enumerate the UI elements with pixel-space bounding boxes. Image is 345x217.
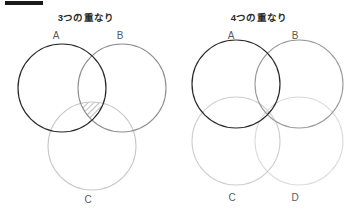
- venn-diagram-figure: 3つの重なり: [0, 0, 345, 217]
- venn-label-a-four: A: [223, 30, 239, 41]
- circle-d-four: [255, 97, 343, 185]
- circle-b-three: [78, 44, 166, 132]
- panel-title-four-overlap: 4つの重なり: [173, 12, 345, 24]
- circle-a-four: [192, 40, 280, 128]
- venn-svg-three: [0, 26, 172, 217]
- venn-label-c-four: C: [224, 192, 240, 203]
- venn-label-b-four: B: [287, 30, 303, 41]
- venn-label-c-three: C: [80, 194, 96, 205]
- circle-a-three: [18, 44, 106, 132]
- panel-three-overlap: 3つの重なり: [0, 0, 172, 217]
- venn-diagram-three: A B C: [0, 26, 172, 217]
- venn-label-d-four: D: [287, 192, 303, 203]
- venn-label-b-three: B: [112, 30, 128, 41]
- venn-label-a-three: A: [48, 30, 64, 41]
- triple-intersection-region: [0, 26, 172, 217]
- venn-diagram-four: A B C D: [173, 26, 345, 217]
- panel-title-three-overlap: 3つの重なり: [0, 12, 172, 24]
- venn-svg-four: [173, 26, 345, 217]
- circle-c-four: [192, 97, 280, 185]
- panel-four-overlap: 4つの重なり: [173, 0, 345, 217]
